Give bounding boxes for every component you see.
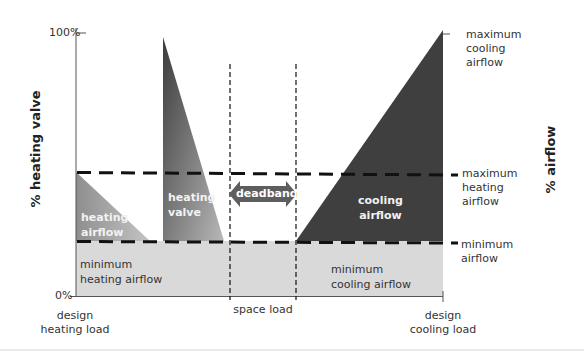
label-line: cooling	[358, 193, 403, 208]
x-label-design-cooling-line2: cooling load	[403, 323, 483, 337]
label-line: airflow	[466, 56, 521, 70]
x-label-design-cooling-line1: design	[403, 309, 483, 323]
label-line: valve	[168, 205, 215, 220]
label-line: maximum	[462, 167, 517, 181]
label-line: cooling airflow	[331, 277, 411, 292]
label-line: airflow	[462, 195, 517, 209]
tick-label-0: 0%	[55, 289, 72, 302]
label-max-cooling-airflow: maximum cooling airflow	[466, 28, 521, 70]
label-line: airflow	[358, 208, 403, 223]
label-line: minimum	[331, 262, 411, 277]
x-label-design-heating: design heating load	[40, 309, 110, 337]
label-min-airflow: minimum airflow	[461, 238, 513, 266]
x-label-design-heating-line2: heating load	[40, 323, 110, 337]
bottom-divider	[0, 349, 584, 351]
min-heating-airflow-label: minimum heating airflow	[80, 257, 162, 287]
label-line: heating	[168, 190, 215, 205]
label-line: heating	[462, 181, 517, 195]
control-sequence-diagram: % heating valve % airflow 100% 0% design…	[0, 0, 584, 354]
label-max-heating-airflow: maximum heating airflow	[462, 167, 517, 209]
label-line: maximum	[466, 28, 521, 42]
deadband-label: deadband	[236, 186, 290, 201]
tick-label-100: 100%	[49, 26, 80, 39]
cooling-airflow-label: cooling airflow	[358, 193, 403, 223]
right-axis-label: % airflow	[543, 120, 558, 200]
heating-valve-label: heating valve	[168, 190, 215, 220]
label-line: heating airflow	[80, 272, 162, 287]
x-label-design-heating-line1: design	[40, 309, 110, 323]
min-cooling-airflow-label: minimum cooling airflow	[331, 262, 411, 292]
label-line: minimum	[80, 257, 162, 272]
x-label-space-load: space load	[228, 303, 298, 317]
label-line: cooling	[466, 42, 521, 56]
heating-airflow-label: heating airflow	[81, 210, 128, 240]
label-line: heating	[81, 210, 128, 225]
label-line: airflow	[81, 225, 128, 240]
x-label-design-cooling: design cooling load	[403, 309, 483, 337]
label-line: airflow	[461, 252, 513, 266]
label-line: minimum	[461, 238, 513, 252]
left-axis-label: % heating valve	[28, 98, 43, 208]
